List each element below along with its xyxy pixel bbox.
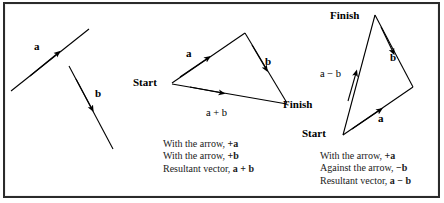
right-finish-label: Finish xyxy=(330,10,359,21)
left-vector-a-label: a xyxy=(34,41,40,52)
middle-caption-line-2: With the arrow, +b xyxy=(163,150,254,162)
middle-vector-b-label: b xyxy=(265,56,271,67)
middle-finish-label: Finish xyxy=(283,99,312,110)
middle-start-label: Start xyxy=(133,77,157,88)
middle-vector-a-label: a xyxy=(186,48,192,59)
right-side-a-arrowhead xyxy=(352,110,380,129)
right-start-label: Start xyxy=(302,128,326,139)
middle-caption-line-3-text: Resultant vector, xyxy=(163,163,233,174)
right-caption-line-1-emph: +a xyxy=(384,150,395,161)
middle-side-b-arrowhead xyxy=(252,45,266,69)
vector-addition-subtraction-figure: a b Start Finish a b a + b Finish Start … xyxy=(0,0,444,203)
left-vector-b-arrowhead xyxy=(76,79,92,109)
middle-resultant-label: a + b xyxy=(206,108,227,119)
middle-caption-line-3: Resultant vector, a + b xyxy=(163,163,254,175)
right-resultant-label: a − b xyxy=(320,69,341,80)
middle-side-a-arrowhead xyxy=(180,58,208,77)
middle-caption-line-3-emph: a + b xyxy=(233,163,254,174)
left-vector-a-arrowhead xyxy=(30,53,58,76)
middle-caption-line-2-text: With the arrow, xyxy=(163,150,227,161)
right-caption-line-2: Against the arrow, −b xyxy=(320,162,411,174)
middle-resultant-arrowhead xyxy=(190,87,222,93)
right-vector-a-label: a xyxy=(378,113,384,124)
right-side-b-arrowhead xyxy=(381,27,393,52)
middle-caption-line-2-emph: +b xyxy=(227,150,238,161)
right-caption-line-3-emph: a − b xyxy=(390,175,411,186)
middle-resultant-line xyxy=(172,84,287,104)
right-caption-block: With the arrow, +a Against the arrow, −b… xyxy=(320,150,411,187)
right-vector-b-label: b xyxy=(390,52,396,63)
right-caption-line-2-text: Against the arrow, xyxy=(320,162,396,173)
middle-caption-line-1: With the arrow, +a xyxy=(163,138,254,150)
right-resultant-arrowhead xyxy=(348,73,356,101)
middle-caption-line-1-emph: +a xyxy=(227,138,238,149)
middle-panel-group xyxy=(172,33,287,104)
middle-caption-line-1-text: With the arrow, xyxy=(163,138,227,149)
right-caption-line-3-text: Resultant vector, xyxy=(320,175,390,186)
middle-caption-block: With the arrow, +a With the arrow, +b Re… xyxy=(163,138,254,175)
right-caption-line-2-emph: −b xyxy=(396,162,407,173)
right-caption-line-1: With the arrow, +a xyxy=(320,150,411,162)
right-caption-line-3: Resultant vector, a − b xyxy=(320,175,411,187)
right-caption-line-1-text: With the arrow, xyxy=(320,150,384,161)
left-vector-b-label: b xyxy=(95,88,101,99)
